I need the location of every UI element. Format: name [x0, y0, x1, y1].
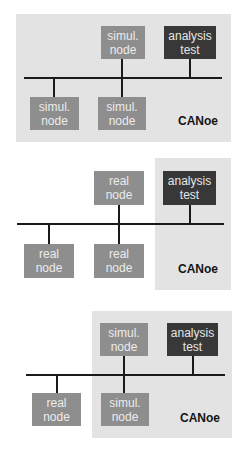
node-line2: node: [43, 410, 70, 424]
canoe-label: CANoe: [180, 411, 220, 425]
bus-connector: [56, 375, 58, 393]
bus-connector: [192, 356, 194, 375]
analysis-test-node: analysis test: [167, 323, 218, 356]
node-line1: simul.: [108, 326, 139, 340]
can-bus-line: [26, 374, 225, 376]
node-line1: simul.: [109, 396, 140, 410]
node-line1: analysis: [171, 326, 214, 340]
real-node-bottom-left: real node: [32, 393, 81, 426]
node-line2: test: [183, 340, 202, 354]
diagram-mixed: simul. node analysis test real node simu…: [0, 0, 243, 466]
node-line2: node: [111, 340, 138, 354]
simulated-node-bottom-middle: simul. node: [101, 393, 149, 426]
node-line2: node: [112, 410, 139, 424]
simulated-node-top: simul. node: [100, 323, 148, 356]
node-line1: real: [46, 396, 66, 410]
